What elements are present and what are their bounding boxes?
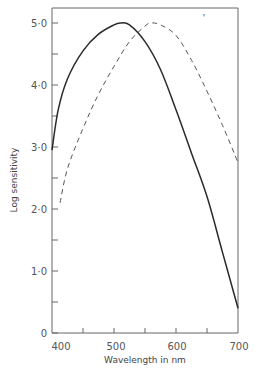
annotation-mark: ' [203,13,205,24]
x-tick-label: 600 [167,341,186,352]
x-tick-labels: 400 500 600 700 [51,341,248,352]
axis-ticks [52,23,207,333]
y-tick-label: 2·0 [31,204,47,215]
y-tick-label: 3·0 [31,142,47,153]
dashed-sensitivity-curve [60,23,238,203]
sensitivity-chart: 0 1·0 2·0 3·0 4·0 5·0 400 500 600 700 Wa… [0,0,260,368]
y-tick-label: 1·0 [31,266,47,277]
x-tick-label: 400 [51,341,70,352]
solid-sensitivity-curve [52,23,238,308]
x-tick-label: 500 [106,341,125,352]
y-tick-label: 5·0 [31,18,47,29]
y-tick-label: 4·0 [31,80,47,91]
y-tick-labels: 0 1·0 2·0 3·0 4·0 5·0 [31,18,47,339]
y-tick-label: 0 [41,328,47,339]
x-axis-title: Wavelength in nm [104,355,186,365]
x-tick-label: 700 [229,341,248,352]
y-axis-title: Log sensitivity [9,147,19,212]
